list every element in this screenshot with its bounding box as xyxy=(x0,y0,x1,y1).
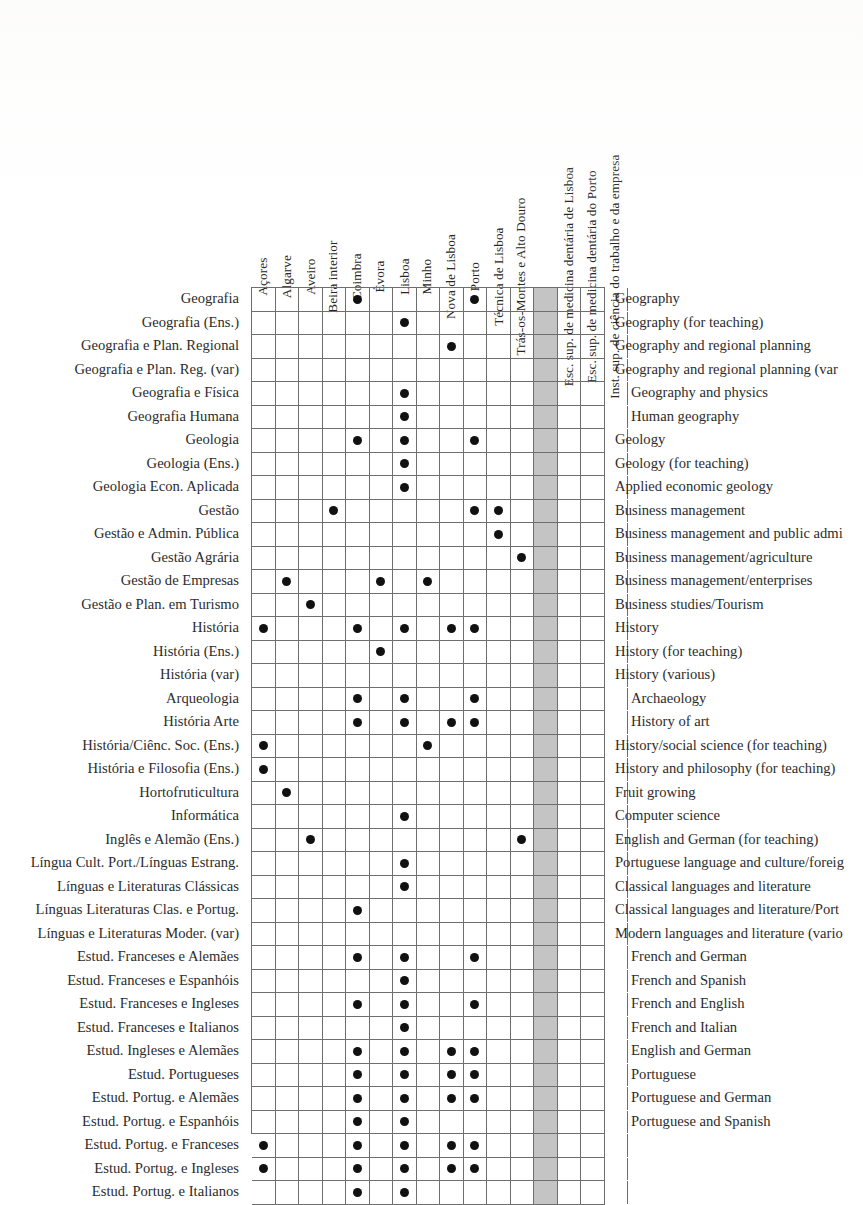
matrix-cell xyxy=(417,923,441,946)
matrix-row xyxy=(252,782,605,806)
matrix-cell xyxy=(440,923,464,946)
matrix-row xyxy=(252,476,605,500)
offered-marker-dot xyxy=(470,1000,479,1009)
matrix-cell xyxy=(487,547,511,570)
matrix-cell xyxy=(252,1017,276,1040)
matrix-cell xyxy=(417,829,441,852)
matrix-cell xyxy=(252,382,276,405)
course-label-en: Modern languages and literature (vario xyxy=(612,922,863,946)
matrix-cell xyxy=(393,993,417,1016)
matrix-cell xyxy=(276,1111,300,1134)
course-label-en: Archaeology xyxy=(612,687,863,711)
matrix-cell xyxy=(440,1087,464,1110)
matrix-cell xyxy=(558,899,582,922)
matrix-cell xyxy=(370,923,394,946)
matrix-row xyxy=(252,1111,605,1135)
column-header-1: Açores xyxy=(251,3,275,283)
matrix-cell-separator xyxy=(534,570,558,593)
offered-marker-dot xyxy=(400,412,409,421)
matrix-cell xyxy=(393,617,417,640)
matrix-cell xyxy=(252,970,276,993)
matrix-cell xyxy=(417,1017,441,1040)
matrix-cell xyxy=(393,382,417,405)
matrix-cell xyxy=(558,382,582,405)
matrix-cell xyxy=(464,1158,488,1181)
matrix-cell xyxy=(440,500,464,523)
matrix-cell xyxy=(464,594,488,617)
course-label-en: Business management/enterprises xyxy=(612,569,863,593)
offered-marker-dot xyxy=(400,1000,409,1009)
matrix-cell xyxy=(487,923,511,946)
matrix-cell xyxy=(323,1064,347,1087)
offered-marker-dot xyxy=(400,812,409,821)
matrix-cell xyxy=(417,359,441,382)
matrix-cell-separator xyxy=(534,406,558,429)
column-header-10: Porto xyxy=(463,3,487,283)
matrix-cell xyxy=(581,500,605,523)
matrix-cell xyxy=(393,758,417,781)
matrix-cell xyxy=(393,829,417,852)
matrix-cell xyxy=(417,993,441,1016)
matrix-cell xyxy=(487,453,511,476)
matrix-cell xyxy=(558,1040,582,1063)
course-label-en: Business management xyxy=(612,499,863,523)
matrix-cell xyxy=(440,970,464,993)
course-label-pt: Línguas Literaturas Clas. e Portug. xyxy=(0,898,245,922)
matrix-cell-separator xyxy=(534,594,558,617)
matrix-cell xyxy=(487,1064,511,1087)
matrix-cell xyxy=(252,852,276,875)
matrix-cell xyxy=(393,970,417,993)
matrix-cell xyxy=(581,805,605,828)
matrix-cell xyxy=(276,359,300,382)
matrix-cell xyxy=(370,829,394,852)
matrix-cell xyxy=(440,288,464,311)
matrix-cell xyxy=(346,664,370,687)
offered-marker-dot xyxy=(400,318,409,327)
offered-marker-dot xyxy=(282,788,291,797)
matrix-cell xyxy=(346,1040,370,1063)
matrix-cell xyxy=(323,805,347,828)
course-label-pt: Gestão e Admin. Pública xyxy=(0,522,245,546)
matrix-cell xyxy=(393,782,417,805)
matrix-cell xyxy=(605,1181,629,1204)
matrix-cell xyxy=(487,852,511,875)
course-label-en: Geography and regional planning (var xyxy=(612,358,863,382)
matrix-cell xyxy=(393,641,417,664)
matrix-cell xyxy=(299,782,323,805)
matrix-cell xyxy=(581,312,605,335)
offered-marker-dot xyxy=(353,1188,362,1197)
course-label-pt: Geologia xyxy=(0,428,245,452)
matrix-cell xyxy=(581,1181,605,1204)
matrix-cell xyxy=(276,1087,300,1110)
matrix-cell xyxy=(558,993,582,1016)
matrix-cell xyxy=(299,335,323,358)
matrix-cell-separator xyxy=(534,382,558,405)
matrix-cell xyxy=(252,829,276,852)
course-label-pt: Geografia xyxy=(0,287,245,311)
matrix-cell xyxy=(252,664,276,687)
matrix-cell xyxy=(252,570,276,593)
matrix-cell xyxy=(417,312,441,335)
matrix-cell xyxy=(440,1064,464,1087)
matrix-cell xyxy=(440,946,464,969)
matrix-cell xyxy=(276,453,300,476)
matrix-cell xyxy=(323,852,347,875)
matrix-cell xyxy=(487,617,511,640)
matrix-cell xyxy=(299,476,323,499)
matrix-cell xyxy=(276,852,300,875)
matrix-row xyxy=(252,688,605,712)
column-header-band: AçoresAlgarveAveiroBeira interiorCoimbra… xyxy=(251,0,604,287)
matrix-cell xyxy=(252,923,276,946)
matrix-cell xyxy=(346,735,370,758)
matrix-cell xyxy=(276,429,300,452)
matrix-cell xyxy=(323,1040,347,1063)
matrix-row xyxy=(252,523,605,547)
matrix-cell xyxy=(511,899,535,922)
column-header-6: Évora xyxy=(369,3,393,283)
matrix-cell xyxy=(252,758,276,781)
matrix-cell xyxy=(276,523,300,546)
offered-marker-dot xyxy=(517,553,526,562)
matrix-cell xyxy=(323,406,347,429)
matrix-cell xyxy=(464,1087,488,1110)
matrix-cell xyxy=(393,476,417,499)
